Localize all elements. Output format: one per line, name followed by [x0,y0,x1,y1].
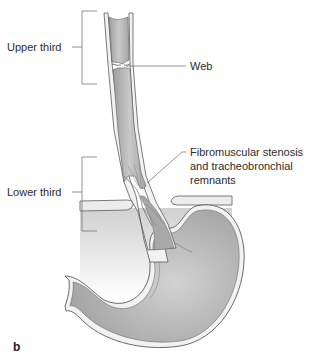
lower-third-label: Lower third [7,185,61,199]
stenosis-label-line1: Fibromuscular stenosis [190,145,303,159]
upper-third-bracket [72,11,97,84]
stenosis-label-line2: and tracheobronchial [190,159,293,173]
upper-third-label: Upper third [7,40,61,54]
panel-label: b [13,340,20,354]
stenosis-label-line3: remnants [190,173,236,187]
anatomy-illustration [0,0,312,360]
esophageal-anomaly-diagram: Upper third Lower third Web Fibromuscula… [0,0,312,360]
web-label: Web [190,59,212,73]
